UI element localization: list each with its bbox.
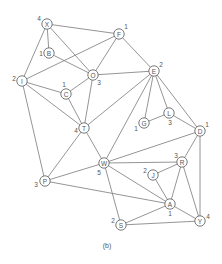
node-weight: 4: [37, 15, 41, 22]
node-weight: 3: [34, 181, 38, 188]
node-i: I2: [12, 75, 27, 87]
node-label: S: [119, 222, 124, 229]
edge-x-i: [22, 24, 47, 81]
node-d: D1: [195, 121, 209, 137]
node-f: F1: [114, 23, 128, 40]
edge-i-c: [22, 81, 66, 94]
node-w: W5: [97, 158, 109, 176]
edge-b-o: [49, 53, 93, 75]
figure-caption: (b): [103, 242, 112, 250]
node-weight: 1: [205, 121, 209, 128]
node-label: X: [45, 21, 50, 28]
edge-a-s: [121, 204, 170, 225]
edge-e-g: [144, 71, 154, 123]
node-label: A: [168, 201, 173, 208]
node-weight: 2: [159, 61, 163, 68]
edge-r-a: [170, 162, 182, 204]
edge-c-t: [66, 94, 84, 128]
edge-o-e: [93, 71, 154, 75]
node-weight: 1: [39, 50, 43, 57]
node-label: I: [21, 78, 23, 85]
edge-e-d: [154, 71, 200, 131]
node-y: Y4: [195, 213, 210, 227]
node-label: O: [90, 72, 95, 79]
edge-p-w: [45, 163, 104, 181]
node-weight: 5: [97, 169, 101, 176]
node-label: B: [47, 50, 51, 57]
node-label: W: [101, 160, 108, 167]
edge-e-l: [154, 71, 169, 113]
node-weight: 3: [174, 152, 178, 159]
node-label: P: [43, 178, 47, 185]
node-t: T4: [74, 123, 89, 134]
node-weight: 2: [111, 217, 115, 224]
edge-x-f: [47, 24, 119, 34]
node-weight: 1: [62, 81, 66, 88]
node-x: X4: [37, 15, 52, 30]
node-weight: 1: [134, 125, 138, 132]
node-label: Y: [198, 218, 203, 225]
node-label: L: [167, 110, 171, 117]
node-label: R: [180, 159, 185, 166]
node-b: B1: [39, 48, 54, 58]
node-weight: 4: [74, 127, 78, 134]
node-weight: 1: [168, 210, 172, 217]
node-label: E: [152, 68, 157, 75]
node-label: D: [198, 128, 203, 135]
edge-w-r: [104, 162, 182, 163]
node-s: S2: [111, 217, 126, 231]
edge-o-t: [84, 75, 93, 128]
edge-t-w: [84, 128, 104, 163]
node-e: E2: [149, 61, 163, 77]
node-label: G: [141, 120, 146, 127]
node-l: L3: [164, 108, 174, 126]
node-label: T: [82, 125, 86, 132]
node-p: P3: [34, 176, 50, 188]
node-g: G1: [134, 118, 149, 132]
node-weight: 2: [143, 167, 147, 174]
edge-s-y: [121, 221, 200, 225]
node-c: C1: [61, 81, 71, 100]
node-weight: 1: [124, 23, 128, 30]
node-a: A1: [165, 199, 175, 217]
node-weight: 4: [206, 213, 210, 220]
edge-t-p: [45, 128, 84, 181]
node-weight: 3: [168, 119, 172, 126]
edge-f-e: [119, 34, 154, 71]
node-label: J: [151, 172, 154, 179]
node-weight: 3: [97, 79, 101, 86]
node-label: F: [117, 31, 121, 38]
node-label: C: [64, 91, 69, 98]
node-o: O3: [88, 70, 101, 86]
node-weight: 2: [12, 75, 16, 82]
graph-diagram: X4B1F1I2O3E2C1G1L3D1T4W5R3J2P3A1Y4S2 (b): [0, 0, 222, 264]
node-j: J2: [143, 167, 158, 181]
